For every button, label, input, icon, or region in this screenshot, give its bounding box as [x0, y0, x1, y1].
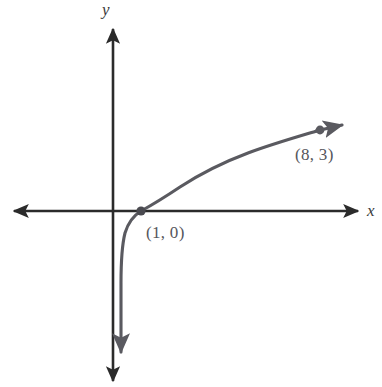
graph-figure: y x (1, 0) (8, 3) [0, 0, 382, 387]
x-axis-label: x [367, 202, 375, 219]
point-label-8-3: (8, 3) [295, 146, 334, 163]
point-marker-8-3 [316, 126, 325, 135]
y-axis-label: y [102, 1, 110, 18]
point-label-1-0: (1, 0) [146, 224, 185, 241]
point-marker-1-0 [136, 206, 145, 215]
coordinate-plane-svg [0, 0, 382, 387]
